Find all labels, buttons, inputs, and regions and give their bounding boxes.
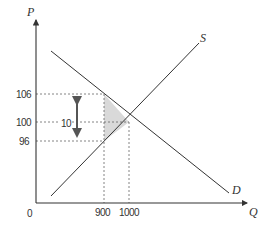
quantity-tick-1000: 1000: [119, 207, 140, 218]
demand-label: D: [231, 183, 241, 197]
quantity-tick-900: 900: [95, 207, 111, 218]
wedge-label: 10: [61, 118, 72, 129]
deadweight-loss-area: [104, 94, 129, 141]
supply-curve: [51, 43, 199, 196]
y-axis-label: P: [26, 5, 35, 19]
price-tick-96: 96: [19, 136, 30, 147]
supply-label: S: [200, 31, 206, 45]
x-axis-label: Q: [249, 205, 258, 219]
origin-label: 0: [27, 208, 33, 219]
price-tick-106: 106: [16, 89, 32, 100]
supply-demand-chart: P Q 0 S D 106 100 96 900 1000 10: [0, 0, 269, 228]
price-tick-100: 100: [16, 117, 32, 128]
